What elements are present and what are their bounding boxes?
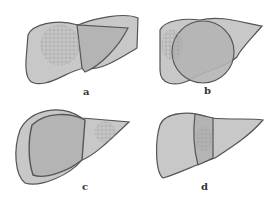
tumor-icon xyxy=(41,25,79,65)
panel-label-c: c xyxy=(82,181,88,192)
panel-label-d: d xyxy=(201,181,208,192)
panel-d xyxy=(157,113,263,178)
panel-a xyxy=(26,16,138,84)
panel-c xyxy=(16,110,129,184)
tumor-icon xyxy=(196,127,212,151)
panel-b xyxy=(160,18,262,84)
liver-diagram xyxy=(0,0,277,205)
panel-label-a: a xyxy=(83,86,89,97)
panel-label-b: b xyxy=(204,85,211,96)
tumor-icon xyxy=(95,122,115,142)
tumor-icon xyxy=(162,30,182,60)
